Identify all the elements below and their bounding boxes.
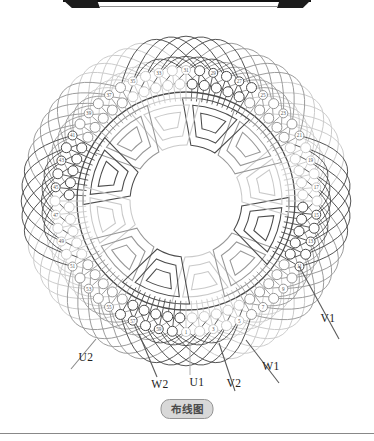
slot-circle xyxy=(53,169,63,179)
slot-number: 7 xyxy=(262,304,265,310)
slot-circle xyxy=(128,92,138,102)
slot-leg xyxy=(212,298,215,310)
terminal-label-v2: V2 xyxy=(226,377,241,389)
slot-leg xyxy=(180,301,181,313)
slot-leg xyxy=(285,188,311,191)
slot-circle xyxy=(98,113,108,123)
slot-circle xyxy=(290,238,300,248)
slot-circle xyxy=(285,143,295,153)
slot-circle xyxy=(195,326,205,336)
slot-circle xyxy=(245,98,255,108)
slot-circle xyxy=(98,279,108,289)
slot-number: 59 xyxy=(156,326,162,332)
slot-circle xyxy=(199,80,209,90)
slot-leg xyxy=(180,89,181,101)
slot-leg xyxy=(75,183,87,185)
slot-circle xyxy=(211,309,221,319)
slot-circle xyxy=(255,105,265,115)
slot-number: 25 xyxy=(260,92,266,98)
slot-circle xyxy=(53,223,63,233)
slot-leg xyxy=(285,211,311,214)
slot-number: 17 xyxy=(314,184,320,190)
slot-number: 13 xyxy=(308,238,314,244)
slot-circle xyxy=(294,166,304,176)
slot-number: 39 xyxy=(86,110,92,116)
slot-circle xyxy=(269,99,279,109)
slot-number: 37 xyxy=(106,92,112,98)
slot-number: 47 xyxy=(53,212,59,218)
slot-circle xyxy=(255,287,265,297)
slot-circle xyxy=(151,83,161,93)
slot-leg xyxy=(196,300,199,326)
slot-circle xyxy=(116,83,126,93)
slot-circle xyxy=(247,309,257,319)
slot-leg xyxy=(78,172,90,175)
slot-circle xyxy=(294,226,304,236)
slot-circle xyxy=(234,300,244,310)
terminal-label-w2: W2 xyxy=(151,378,169,390)
coil-group-outline xyxy=(193,105,237,143)
coil-group-outline xyxy=(90,150,128,194)
slot-circle xyxy=(117,98,127,108)
slot-circle xyxy=(223,87,233,97)
slot-circle xyxy=(309,169,319,179)
slot-circle xyxy=(68,226,78,236)
coil-group-outline xyxy=(244,208,282,252)
slot-leg xyxy=(168,90,170,102)
caption-text: 布线图 xyxy=(171,403,204,415)
slot-leg xyxy=(191,89,192,101)
slot-leg xyxy=(212,93,215,105)
slot-leg xyxy=(191,301,192,313)
slot-circle xyxy=(65,178,75,188)
slot-circle xyxy=(61,143,71,153)
slot-circle xyxy=(90,122,100,132)
slot-number: 41 xyxy=(70,132,76,138)
terminal-label-w1: W1 xyxy=(262,360,280,372)
slot-circle xyxy=(245,294,255,304)
coil-group-outline xyxy=(90,198,125,243)
slot-circle xyxy=(234,92,244,102)
slot-circle xyxy=(93,293,103,303)
slot-circle xyxy=(107,287,117,297)
coil-group-outline xyxy=(254,216,274,241)
slot-circle xyxy=(61,249,71,259)
slot-number: 3 xyxy=(212,326,215,332)
slot-circle xyxy=(272,122,282,132)
slot-circle xyxy=(223,305,233,315)
slot-circle xyxy=(117,294,127,304)
slot-circle xyxy=(221,71,231,81)
slot-circle xyxy=(175,313,185,323)
slot-number: 57 xyxy=(130,318,136,324)
slot-circle xyxy=(107,105,117,115)
slot-leg xyxy=(78,227,90,230)
slot-circle xyxy=(298,190,308,200)
slot-circle xyxy=(287,273,297,283)
terminal-label-u2: U2 xyxy=(78,351,93,363)
coil-group-outline xyxy=(135,259,179,297)
slot-circle xyxy=(68,166,78,176)
slot-circle xyxy=(301,249,311,259)
coil-group-outline xyxy=(191,272,217,290)
coil-group-outline xyxy=(144,105,189,140)
slot-circle xyxy=(298,202,308,212)
slot-circle xyxy=(77,143,87,153)
slot-circle xyxy=(269,293,279,303)
slot-circle xyxy=(247,83,257,93)
slot-circle xyxy=(83,260,93,270)
slot-circle xyxy=(90,270,100,280)
coil-group-outline xyxy=(98,161,118,186)
coil-group-outline xyxy=(97,206,115,232)
slot-circle xyxy=(287,119,297,129)
slot-leg xyxy=(61,188,87,191)
slot-circle xyxy=(163,312,173,322)
coil-group-outline xyxy=(247,159,282,204)
slot-leg xyxy=(285,183,297,185)
slot-leg xyxy=(257,122,265,130)
coil-group-outline xyxy=(257,170,275,196)
coil-group-outline xyxy=(101,236,145,280)
slot-number: 23 xyxy=(281,110,287,116)
slot-number: 29 xyxy=(211,70,217,76)
coil-group-outline xyxy=(106,116,150,160)
slot-leg xyxy=(107,122,115,130)
slot-circle xyxy=(163,80,173,90)
